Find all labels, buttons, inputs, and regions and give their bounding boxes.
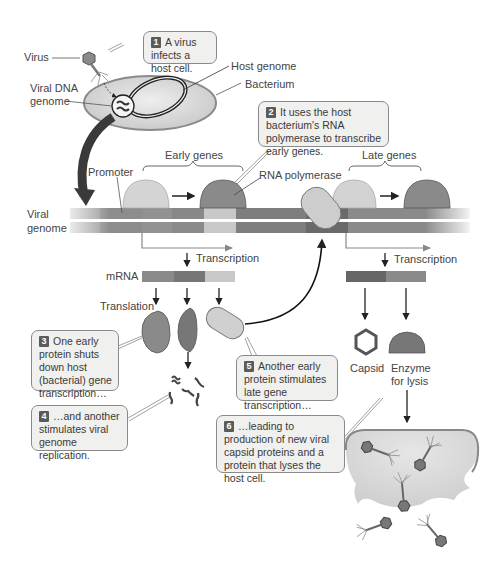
step-2-callout: 2It uses the host bacterium's RNA polyme…	[258, 101, 389, 147]
insertion-arrowhead	[74, 188, 95, 206]
enzyme-label-line2: for lysis	[391, 375, 428, 388]
viral-genome-label-line2: genome	[27, 222, 67, 235]
host-genome-label: Host genome	[231, 60, 296, 73]
viral-genome-label-line1: Viral	[27, 208, 49, 221]
early-transcription-arrow	[142, 233, 232, 248]
step-3-callout: 3One early protein shuts down host (bact…	[31, 330, 119, 391]
viral-genome-strands	[60, 206, 475, 236]
lysis-enzyme-icon	[389, 332, 425, 353]
rna-polymerase-late-1	[332, 180, 376, 208]
early-protein-3	[202, 303, 248, 343]
early-transcription-label: Transcription	[196, 252, 259, 265]
step-4-badge: 4	[39, 411, 49, 422]
rna-polymerase-early-1	[123, 180, 169, 208]
promoter-label: Promoter	[88, 166, 133, 179]
step-5-badge: 5	[244, 361, 254, 372]
bacterium-leader-line	[216, 83, 241, 95]
early-protein-1	[142, 311, 170, 353]
viral-dna-label-line2: genome	[30, 95, 70, 108]
mrna-label: mRNA	[106, 270, 138, 283]
step-3-badge: 3	[39, 336, 49, 347]
bacterium-label: Bacterium	[245, 78, 295, 91]
late-genes-brace	[349, 161, 421, 171]
early-genes-brace	[143, 161, 243, 171]
early-mrna-bar	[142, 271, 235, 282]
virus-label: Virus	[24, 51, 49, 64]
step-2-badge: 2	[266, 107, 276, 118]
early-protein-2	[178, 308, 197, 352]
late-transcription-arrow	[346, 233, 430, 248]
step-4-callout: 4…and another stimulates viral genome re…	[31, 405, 128, 451]
translation-label: Translation	[100, 300, 154, 313]
late-genes-label: Late genes	[362, 149, 416, 162]
rna-polymerase-early-2	[200, 180, 246, 208]
capsid-label: Capsid	[350, 362, 384, 375]
rna-polymerase-late-2	[404, 180, 450, 208]
rna-polymerase-label: RNA polymerase	[259, 169, 342, 182]
virus-icon	[83, 52, 108, 85]
step-1-callout: 1A virus infects a host cell.	[143, 31, 217, 64]
promoter-leader-line	[117, 177, 122, 213]
late-transcription-label: Transcription	[394, 253, 457, 266]
insertion-arrow	[82, 117, 113, 196]
enzyme-label-line1: Enzyme	[391, 362, 431, 375]
step-3-text: One early protein shuts down host (bacte…	[39, 335, 112, 399]
step-6-badge: 6	[224, 421, 234, 432]
viral-dna-label-line1: Viral DNA	[30, 82, 78, 95]
late-mrna-bar	[346, 271, 426, 282]
step-1-badge: 1	[151, 37, 161, 48]
step-5-callout: 5Another early protein stimulates late g…	[236, 355, 338, 401]
step-6-callout: 6…leading to production of new viral cap…	[216, 415, 345, 473]
capsid-icon	[356, 330, 376, 354]
early-genes-label: Early genes	[165, 149, 223, 162]
replicated-genomes-icon	[170, 377, 204, 407]
